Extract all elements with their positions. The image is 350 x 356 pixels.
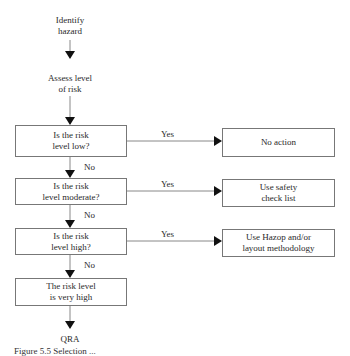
decision-moderate-line1: Is the risk [42,181,99,192]
action-box-no-action: No action [222,128,335,157]
no-label-high: No [84,260,95,270]
yes-label-low: Yes [161,129,174,139]
yes-label-high: Yes [161,229,174,239]
action-checklist-line2: check list [260,193,298,204]
start-line1: Identify [56,15,85,25]
assess-node: Assess level of risk [30,73,110,95]
action-hazop-line2: layout methodology [242,243,314,254]
final-line1: The risk level [46,281,95,292]
decision-box-high: Is the risk level high? [15,228,127,255]
start-line2: hazard [58,26,82,36]
final-box-very-high: The risk level is very high [15,278,127,306]
decision-box-low: Is the risk level low? [15,125,127,157]
final-line2: is very high [46,292,95,303]
action-checklist-line1: Use safety [260,182,298,193]
end-node-qra: QRA [40,334,100,345]
yes-label-moderate: Yes [161,179,174,189]
start-node: Identify hazard [30,15,110,37]
decision-high-line2: level high? [51,242,91,253]
assess-line1: Assess level [48,73,92,83]
decision-low-line2: level low? [52,141,89,152]
action-no-action-line1: No action [261,137,296,148]
action-hazop-line1: Use Hazop and/or [242,232,314,243]
no-label-low: No [84,162,95,172]
action-box-hazop: Use Hazop and/or layout methodology [222,229,335,257]
decision-moderate-line2: level moderate? [42,192,99,203]
action-box-safety-checklist: Use safety check list [222,179,335,207]
figure-caption: Figure 5.5 Selection ... [14,346,96,356]
assess-line2: of risk [58,84,81,94]
no-label-moderate: No [84,210,95,220]
decision-box-moderate: Is the risk level moderate? [15,178,127,205]
decision-low-line1: Is the risk [52,130,89,141]
decision-high-line1: Is the risk [51,231,91,242]
